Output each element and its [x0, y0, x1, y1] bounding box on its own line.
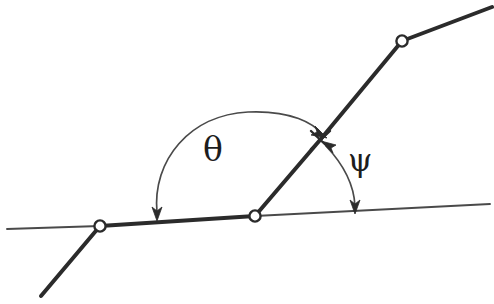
lower-left-branch-path: [41, 226, 100, 296]
upper-right-branch-path: [255, 7, 492, 216]
baseline-emphasised-segment: [100, 216, 255, 226]
upper-right-node: [396, 35, 407, 46]
psi-label: ψ: [348, 145, 372, 176]
left-node: [94, 220, 105, 231]
theta-arc-path: [157, 112, 322, 213]
diagram-canvas: [0, 0, 494, 304]
upper-right-branch: [255, 7, 492, 216]
theta-arc: [152, 112, 327, 221]
angle-diagram-figure: θ ψ: [0, 0, 494, 304]
theta-label: θ: [203, 133, 223, 166]
middle-node: [249, 210, 260, 221]
lower-left-branch: [41, 226, 100, 296]
node-markers: [94, 35, 407, 231]
baseline-thick-path: [100, 216, 255, 226]
